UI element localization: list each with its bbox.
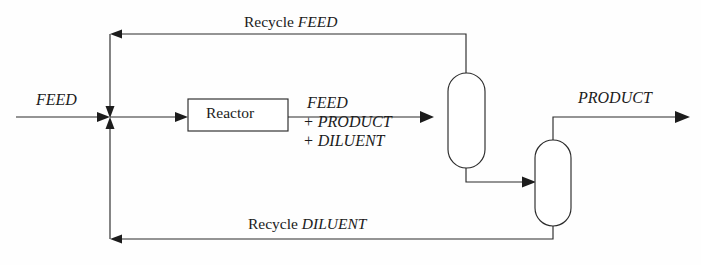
label-recycle-diluent: Recycle DILUENT <box>248 216 366 232</box>
column-2-unit <box>535 140 571 226</box>
stream-junction-to-reactor <box>110 112 188 122</box>
feed-inlet-arrowhead <box>97 112 110 122</box>
label-recycle-diluent-prefix: Recycle <box>248 215 298 232</box>
label-reactor: Reactor <box>206 105 254 121</box>
label-product-outlet: PRODUCT <box>578 90 652 106</box>
recycle-diluent-up-arrowhead <box>106 117 115 129</box>
stream-feed-inlet <box>16 112 110 122</box>
column1-bottoms-path <box>466 168 526 182</box>
label-recycle-diluent-stream: DILUENT <box>302 215 367 232</box>
reactor-effluent-arrowhead <box>420 111 434 123</box>
recycle-feed-arrowhead <box>110 30 122 39</box>
label-recycle-feed-prefix: Recycle <box>244 13 294 30</box>
label-reactor-outlet-product: + PRODUCT <box>303 114 392 130</box>
recycle-feed-path <box>117 34 466 73</box>
label-feed-inlet: FEED <box>36 92 77 108</box>
label-reactor-outlet-feed: FEED <box>307 95 348 111</box>
column1-bottoms-arrowhead <box>522 177 536 188</box>
label-recycle-feed-stream: FEED <box>298 13 338 30</box>
stream-product-outlet <box>553 111 690 140</box>
recycle-diluent-arrowhead <box>110 235 122 244</box>
junction-to-reactor-arrowhead <box>175 112 188 122</box>
process-flow-diagram: FEED Reactor Recycle FEED Recycle DILUEN… <box>0 0 701 265</box>
stream-column1-bottoms <box>466 168 536 188</box>
label-recycle-feed: Recycle FEED <box>244 14 337 30</box>
stream-recycle-diluent-upleg <box>106 117 115 239</box>
stream-recycle-feed-downleg <box>106 34 115 118</box>
product-outlet-path <box>553 117 679 140</box>
product-outlet-arrowhead <box>675 111 690 123</box>
stream-recycle-feed <box>110 30 466 74</box>
label-reactor-outlet-diluent: + DILUENT <box>303 133 384 149</box>
column-1-unit <box>448 73 485 168</box>
